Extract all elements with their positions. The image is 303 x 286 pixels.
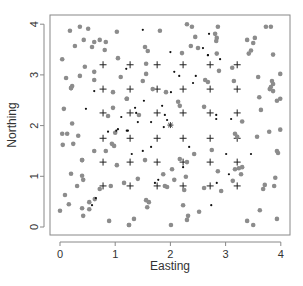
grey-point (92, 40, 97, 45)
grey-point (122, 181, 127, 186)
grey-point (239, 172, 244, 177)
scatter-chart: 01234 01234 Easting Northing (0, 0, 303, 286)
plus-marker (127, 61, 134, 68)
plus-marker (207, 109, 214, 116)
grey-point (164, 90, 169, 95)
black-point (173, 71, 175, 73)
plus-marker (180, 135, 187, 142)
x-axis: 01234 (57, 242, 284, 260)
plus-marker (154, 61, 161, 68)
y-tick-label: 1 (28, 173, 40, 179)
plus-marker (127, 86, 134, 93)
black-point (169, 51, 171, 53)
plus-marker (127, 182, 134, 189)
plus-marker (127, 135, 134, 142)
black-point (163, 126, 165, 128)
plus-marker (207, 61, 214, 68)
grey-point (271, 52, 276, 57)
grey-point (240, 119, 245, 124)
grey-point (264, 24, 269, 29)
grey-point (60, 143, 65, 148)
black-point (150, 121, 152, 123)
plus-marker (234, 182, 241, 189)
grey-point (210, 148, 215, 153)
grey-point (255, 134, 260, 139)
plus-marker (180, 86, 187, 93)
black-point (95, 197, 97, 199)
plus-marker (100, 86, 107, 93)
grey-point (184, 175, 189, 180)
grey-point (75, 184, 80, 189)
grey-point (136, 177, 141, 182)
grey-point (132, 217, 137, 222)
plus-marker (207, 135, 214, 142)
grey-point (115, 30, 120, 35)
black-point (120, 116, 122, 118)
grey-point (111, 90, 116, 95)
grey-point (63, 193, 68, 198)
grey-point (92, 70, 97, 75)
grey-point (107, 219, 112, 224)
grey-point (118, 75, 123, 80)
grey-point (71, 142, 76, 147)
black-point (93, 90, 95, 92)
grey-point (278, 96, 283, 101)
black-point (154, 182, 156, 184)
grey-point (267, 129, 272, 134)
grey-point (185, 218, 190, 223)
plus-marker (100, 159, 107, 166)
grey-point (64, 76, 69, 81)
grey-point (87, 207, 92, 212)
black-point (215, 114, 217, 116)
grey-point (62, 107, 67, 112)
grey-point (92, 78, 97, 83)
grey-point (245, 219, 250, 224)
grey-point (65, 131, 70, 136)
grey-point (272, 184, 277, 189)
grey-point (189, 44, 194, 49)
grey-point (177, 104, 182, 109)
grey-point (69, 171, 74, 176)
black-point (127, 130, 129, 132)
plus-marker (234, 61, 241, 68)
grey-point (192, 152, 197, 157)
plus-marker (207, 182, 214, 189)
plus-marker (100, 109, 107, 116)
black-point (230, 118, 232, 120)
black-point (178, 75, 180, 77)
black-point (216, 182, 218, 184)
grey-point (78, 74, 83, 79)
grey-point (137, 113, 142, 118)
grey-point (190, 24, 195, 29)
y-tick-label: 0 (28, 224, 40, 230)
grey-point (261, 187, 266, 192)
grey-point (147, 200, 152, 205)
grey-point (106, 114, 111, 119)
black-point (219, 58, 221, 60)
y-axis-label: Northing (5, 102, 19, 147)
grey-point (108, 184, 113, 189)
plus-marker (100, 135, 107, 142)
x-tick-label: 4 (278, 248, 284, 260)
plus-marker (127, 159, 134, 166)
grey-point (196, 46, 201, 51)
grey-point (97, 38, 102, 43)
plus-marker (154, 159, 161, 166)
black-point (182, 166, 184, 168)
black-point (137, 121, 139, 123)
black-point (225, 153, 227, 155)
plus-marker (154, 135, 161, 142)
grey-point (219, 189, 224, 194)
black-point (142, 150, 144, 152)
black-point (91, 204, 93, 206)
plus-marker (180, 61, 187, 68)
grey-point (253, 36, 258, 41)
grey-point (116, 56, 121, 61)
grey-point (216, 169, 221, 174)
plus-marker (207, 159, 214, 166)
y-tick-label: 3 (28, 72, 40, 78)
grey-point (257, 95, 262, 100)
grey-point (206, 80, 211, 85)
black-point (157, 179, 159, 181)
plus-marker (234, 109, 241, 116)
